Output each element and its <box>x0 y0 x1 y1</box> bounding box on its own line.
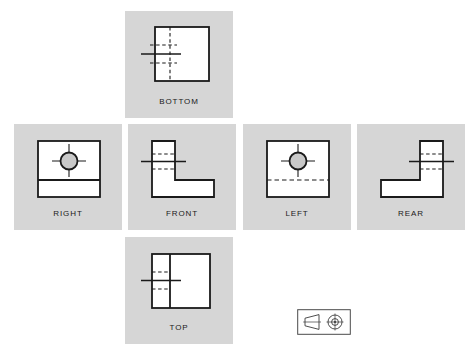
view-label-rear: REAR <box>357 209 465 218</box>
view-label-front: FRONT <box>128 209 236 218</box>
view-panel-left[interactable]: LEFT <box>243 124 351 230</box>
view-panel-front[interactable]: FRONT <box>128 124 236 230</box>
view-label-bottom: BOTTOM <box>125 97 233 106</box>
projection-symbol-drawing <box>297 309 351 335</box>
view-panel-top[interactable]: TOP <box>125 237 233 344</box>
view-panel-rear[interactable]: REAR <box>357 124 465 230</box>
view-label-right: RIGHT <box>14 209 122 218</box>
view-panel-right[interactable]: RIGHT <box>14 124 122 230</box>
view-label-top: TOP <box>125 323 233 332</box>
view-label-left: LEFT <box>243 209 351 218</box>
first-angle-projection-symbol[interactable] <box>297 309 351 335</box>
figure-canvas: BOTTOM RIGHT FRONT <box>0 0 473 362</box>
view-panel-bottom[interactable]: BOTTOM <box>125 11 233 118</box>
